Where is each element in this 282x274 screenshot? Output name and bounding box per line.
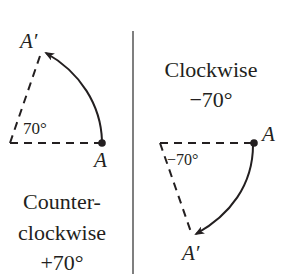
right-caption-line2: −70° bbox=[189, 87, 232, 112]
left-point-a-label: A bbox=[92, 148, 107, 172]
left-caption-line2: clockwise bbox=[18, 220, 106, 245]
right-point-a-label: A bbox=[260, 122, 275, 146]
left-point-a-prime-label: A′ bbox=[18, 29, 38, 53]
left-panel: 70° A A′ Counter- clockwise +70° bbox=[10, 29, 107, 274]
left-rotation-arc-arrow bbox=[46, 53, 102, 141]
left-angle-label: 70° bbox=[23, 119, 47, 138]
right-caption-line1: Clockwise bbox=[165, 57, 258, 82]
left-caption-line3: +70° bbox=[40, 250, 83, 274]
left-caption-line1: Counter- bbox=[23, 189, 101, 214]
right-point-a-prime-label: A′ bbox=[180, 241, 200, 265]
left-point-a-dot bbox=[98, 139, 106, 147]
rotation-diagram: 70° A A′ Counter- clockwise +70° Clockwi… bbox=[0, 0, 282, 274]
right-rotation-arc-arrow bbox=[196, 145, 253, 234]
right-point-a-dot bbox=[250, 139, 258, 147]
right-angle-label: −70° bbox=[167, 151, 198, 168]
right-panel: Clockwise −70° −70° A A′ bbox=[160, 57, 275, 265]
